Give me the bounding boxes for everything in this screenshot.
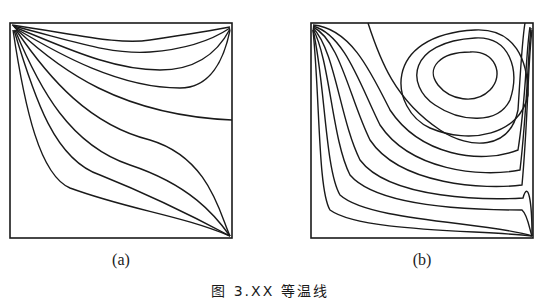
panel-b-label: (b) [402, 251, 442, 269]
panel-b [270, 0, 540, 293]
figure-caption: 图 3.XX 等温线 [0, 280, 540, 300]
panel-a-label: (a) [101, 251, 141, 269]
isotherm-plot-b [270, 0, 540, 293]
panel-a [0, 0, 270, 293]
isotherm-plot-a [0, 0, 270, 293]
